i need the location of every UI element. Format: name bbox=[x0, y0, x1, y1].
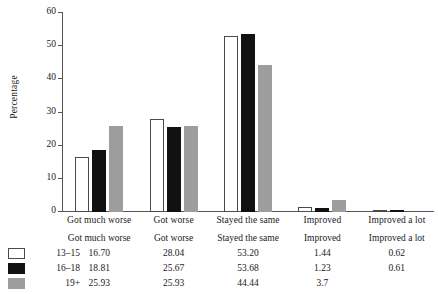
bar-1-0 bbox=[150, 119, 164, 212]
table-row: 16–1818.8125.6753.681.230.61 bbox=[0, 262, 438, 276]
legend-swatch-2 bbox=[8, 278, 25, 289]
table-column-header-4: Improved a lot bbox=[337, 232, 438, 244]
plot-area: Percentage 0102030405060 Got much worseG… bbox=[0, 0, 438, 220]
table-cell-2-3: 3.7 bbox=[272, 277, 372, 289]
bar-0-0 bbox=[75, 157, 89, 212]
bar-1-2 bbox=[184, 126, 198, 212]
table-row: 19+25.9325.9344.443.7 bbox=[0, 277, 438, 291]
legend-data-table: Got much worseGot worseStayed the sameIm… bbox=[0, 232, 438, 294]
bar-chart-figure: Percentage 0102030405060 Got much worseG… bbox=[0, 0, 438, 294]
bar-2-2 bbox=[258, 65, 272, 212]
bar-2-1 bbox=[241, 34, 255, 212]
x-category-label-4: Improved a lot bbox=[337, 215, 438, 225]
legend-swatch-1 bbox=[8, 263, 25, 274]
bar-3-2 bbox=[332, 200, 346, 212]
bar-2-0 bbox=[224, 36, 238, 212]
bars-layer bbox=[0, 0, 438, 212]
bar-3-1 bbox=[315, 208, 329, 212]
bar-0-1 bbox=[92, 150, 106, 212]
legend-swatch-0 bbox=[8, 248, 25, 259]
table-cell-0-4: 0.62 bbox=[347, 247, 438, 259]
table-cell-1-4: 0.61 bbox=[347, 262, 438, 274]
bar-4-1 bbox=[390, 210, 404, 212]
table-row: 13–1516.7028.0453.201.440.62 bbox=[0, 247, 438, 261]
bar-0-2 bbox=[109, 126, 123, 212]
bar-1-1 bbox=[167, 127, 181, 212]
bar-3-0 bbox=[298, 207, 312, 212]
bar-4-0 bbox=[373, 210, 387, 212]
